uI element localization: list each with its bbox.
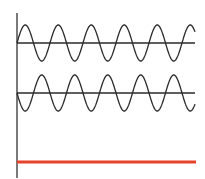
interference-diagram [0,0,205,179]
